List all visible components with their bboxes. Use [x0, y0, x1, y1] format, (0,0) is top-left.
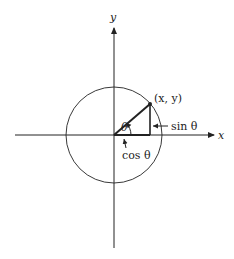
cos-label: cos θ	[122, 149, 151, 162]
y-axis-label: y	[109, 11, 117, 24]
radius-line	[114, 104, 150, 135]
point-label: (x, y)	[154, 92, 182, 105]
sin-label: sin θ	[171, 120, 198, 133]
angle-label: θ	[121, 121, 128, 134]
x-axis-label: x	[218, 129, 225, 142]
cos-pointer-arrow	[124, 139, 126, 148]
unit-circle-diagram: y x (x, y) θ sin θ cos θ	[0, 0, 234, 259]
point-marker	[148, 102, 152, 106]
